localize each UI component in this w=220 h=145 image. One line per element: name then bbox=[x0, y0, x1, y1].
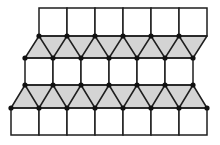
vertex-dot bbox=[134, 55, 139, 60]
square-tile bbox=[151, 108, 179, 135]
square-tile bbox=[123, 8, 151, 36]
square-tile bbox=[179, 8, 207, 36]
square-tile bbox=[39, 8, 67, 36]
vertex-dot bbox=[162, 55, 167, 60]
vertex-dot bbox=[190, 55, 195, 60]
tiling-diagram: Tiling of squares and triangles bbox=[0, 0, 220, 145]
vertex-dot bbox=[64, 33, 69, 38]
square-tile bbox=[95, 108, 123, 135]
square-tiles bbox=[11, 8, 207, 135]
vertex-dot bbox=[148, 33, 153, 38]
square-tile bbox=[67, 108, 95, 135]
square-tile bbox=[165, 58, 193, 85]
square-tile bbox=[25, 58, 53, 85]
vertex-dot bbox=[64, 105, 69, 110]
square-tile bbox=[11, 108, 39, 135]
square-tile bbox=[123, 108, 151, 135]
vertex-dot bbox=[8, 105, 13, 110]
vertex-dot bbox=[120, 33, 125, 38]
vertex-dot bbox=[22, 55, 27, 60]
vertex-dot bbox=[78, 82, 83, 87]
vertex-dot bbox=[106, 55, 111, 60]
vertex-dot bbox=[36, 105, 41, 110]
vertex-dot bbox=[120, 105, 125, 110]
vertex-dot bbox=[78, 55, 83, 60]
vertex-dot bbox=[36, 33, 41, 38]
vertex-dot bbox=[204, 105, 209, 110]
square-tile bbox=[179, 108, 207, 135]
vertex-dot bbox=[190, 82, 195, 87]
vertex-dot bbox=[22, 82, 27, 87]
vertex-dot bbox=[176, 105, 181, 110]
vertex-dot bbox=[92, 33, 97, 38]
vertex-dot bbox=[176, 33, 181, 38]
vertex-dot bbox=[50, 55, 55, 60]
square-tile bbox=[53, 58, 81, 85]
square-tile bbox=[137, 58, 165, 85]
square-tile bbox=[109, 58, 137, 85]
vertex-dot bbox=[106, 82, 111, 87]
square-tile bbox=[39, 108, 67, 135]
square-tile bbox=[81, 58, 109, 85]
square-tile bbox=[67, 8, 95, 36]
vertex-dot bbox=[92, 105, 97, 110]
vertex-dot bbox=[148, 105, 153, 110]
vertex-dot bbox=[134, 82, 139, 87]
square-tile bbox=[151, 8, 179, 36]
square-tile bbox=[95, 8, 123, 36]
vertex-dot bbox=[50, 82, 55, 87]
vertex-dot bbox=[162, 82, 167, 87]
